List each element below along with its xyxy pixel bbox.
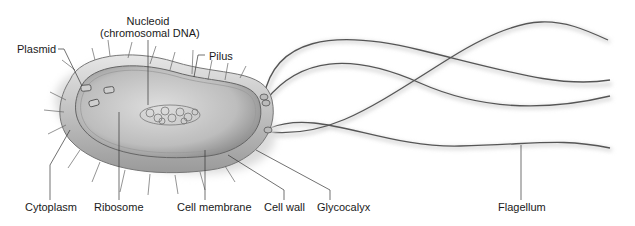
label-nucleoid: Nucleoid (chromosomal DNA) xyxy=(100,15,196,39)
label-ribosome: Ribosome xyxy=(94,201,144,213)
label-glycocalyx: Glycocalyx xyxy=(317,201,370,213)
bacterial-cell-diagram: Nucleoid (chromosomal DNA) Plasmid Pilus… xyxy=(0,0,635,226)
label-cell-wall: Cell wall xyxy=(264,201,305,213)
label-plasmid: Plasmid xyxy=(17,43,56,55)
label-cytoplasm: Cytoplasm xyxy=(25,201,77,213)
label-flagellum: Flagellum xyxy=(498,201,546,213)
label-cell-membrane: Cell membrane xyxy=(177,201,252,213)
label-nucleoid-line1: Nucleoid xyxy=(100,15,196,27)
label-nucleoid-line2: (chromosomal DNA) xyxy=(100,27,196,39)
label-pilus: Pilus xyxy=(209,50,233,62)
cell-illustration xyxy=(0,0,635,226)
flagella xyxy=(264,22,610,148)
